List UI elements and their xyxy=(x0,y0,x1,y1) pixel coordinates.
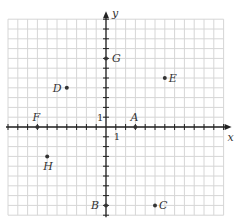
point-f: F xyxy=(31,111,40,129)
point-marker xyxy=(104,203,108,207)
point-label: B xyxy=(90,199,99,212)
point-label: F xyxy=(31,111,40,124)
point-label: C xyxy=(159,199,168,212)
point-marker xyxy=(65,86,69,90)
point-marker xyxy=(153,203,157,207)
point-marker xyxy=(163,76,167,80)
x-unit-label: 1 xyxy=(114,131,120,142)
y-unit-label: 1 xyxy=(97,112,103,123)
coordinate-plane: x y 1 1 ABCDEFGH xyxy=(0,0,241,224)
point-h: H xyxy=(42,154,53,173)
point-label: D xyxy=(52,82,62,95)
point-label: A xyxy=(129,111,138,124)
point-marker xyxy=(45,154,49,158)
grid-lines xyxy=(8,19,224,215)
point-label: E xyxy=(168,72,177,85)
point-b: B xyxy=(90,199,108,212)
point-d: D xyxy=(52,82,69,95)
x-axis-label: x xyxy=(228,131,235,144)
point-marker xyxy=(35,125,39,129)
point-a: A xyxy=(129,111,138,129)
point-marker xyxy=(104,56,108,60)
point-label: G xyxy=(112,52,121,65)
y-axis-label: y xyxy=(111,7,119,20)
point-marker xyxy=(133,125,137,129)
point-label: H xyxy=(42,160,53,173)
